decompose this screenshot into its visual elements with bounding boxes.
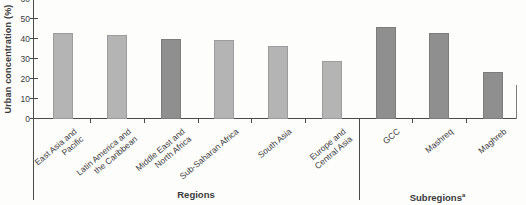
x-tick-mark	[412, 118, 413, 123]
subregions-label-text: Subregions	[410, 192, 462, 203]
bar-mashreq	[429, 33, 449, 119]
bar-maghreb	[483, 72, 503, 119]
bar-south-asia	[268, 46, 288, 119]
y-axis-line	[33, 0, 34, 200]
x-label-line: Mashreq	[424, 127, 455, 156]
x-tick-mark	[198, 118, 199, 123]
y-tick-mark-0	[30, 118, 38, 119]
x-label-maghreb: Maghreb	[477, 127, 509, 156]
x-label-europe-and-central-asia: Europe andCentral Asia	[307, 127, 354, 171]
subregions-footnote-marker: a	[462, 192, 465, 198]
bar-sub-saharan-africa	[214, 40, 234, 119]
y-tick-mark-40	[30, 38, 38, 39]
y-tick-mark-10	[30, 98, 38, 99]
x-label-line: Maghreb	[477, 127, 509, 156]
x-label-south-asia: South Asia	[257, 127, 294, 160]
group-label-regions: Regions	[33, 189, 359, 201]
y-tick-label-10: 10	[4, 94, 30, 104]
bar-middle-east-and-north-africa	[161, 39, 181, 119]
y-tick-label-20: 20	[4, 74, 30, 84]
x-label-latin-america-and-the-caribbean: Latin America andthe Caribbean	[75, 127, 139, 185]
plot-right-border	[516, 85, 517, 119]
y-tick-mark-50	[30, 18, 38, 19]
bar-east-asia-and-pacific	[53, 33, 73, 119]
group-label-subregions: Subregionsa	[359, 189, 516, 201]
x-tick-mark	[90, 118, 91, 123]
x-tick-mark	[466, 118, 467, 123]
bar-latin-america-and-the-caribbean	[107, 35, 127, 119]
y-tick-label-60: 60	[4, 0, 30, 4]
bar-gcc	[376, 27, 396, 119]
urban-concentration-bar-chart: Urban concentration (%) 0102030405060 Ea…	[0, 0, 526, 205]
y-tick-label-0: 0	[4, 114, 30, 124]
x-label-line: South Asia	[257, 127, 294, 160]
y-tick-label-30: 30	[4, 54, 30, 64]
y-tick-label-40: 40	[4, 34, 30, 44]
x-label-gcc: GCC	[381, 127, 402, 146]
bar-europe-and-central-asia	[322, 61, 342, 119]
y-tick-mark-20	[30, 78, 38, 79]
regions-label-text: Regions	[177, 189, 214, 200]
y-tick-label-50: 50	[4, 14, 30, 24]
y-tick-mark-30	[30, 58, 38, 59]
x-tick-mark	[251, 118, 252, 123]
x-label-line: GCC	[381, 127, 402, 146]
x-label-mashreq: Mashreq	[424, 127, 455, 156]
regions-subregions-divider-line	[359, 118, 360, 200]
x-tick-mark	[144, 118, 145, 123]
x-tick-mark	[305, 118, 306, 123]
